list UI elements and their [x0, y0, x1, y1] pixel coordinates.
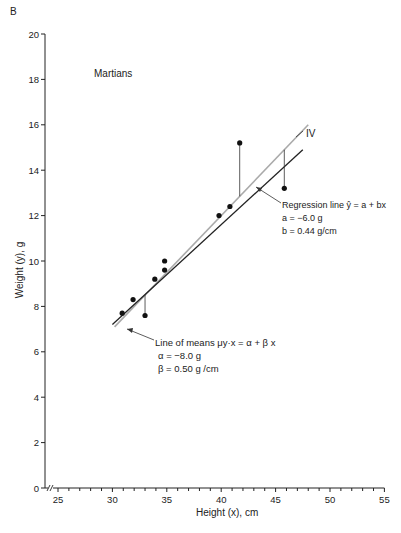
data-point [120, 311, 125, 316]
y-tick-label: 10 [28, 256, 39, 267]
annotation-leaders [127, 131, 303, 340]
chart-title: Martians [94, 68, 132, 79]
axis-break-icon [50, 485, 53, 491]
y-tick-label: 4 [34, 392, 39, 403]
iv-label: IV [306, 128, 316, 139]
x-tick-label: 40 [216, 494, 227, 505]
means-annotation-line2: α = −8.0 g [158, 350, 201, 361]
data-point [152, 277, 157, 282]
regression-annotation-line2: a = −6.0 g [282, 213, 323, 223]
y-tick-label: 8 [34, 301, 39, 312]
x-tick-label: 35 [162, 494, 173, 505]
axes: 0246810121416182025303540455055 [28, 29, 389, 506]
y-tick-label: 12 [28, 210, 39, 221]
data-point [162, 267, 167, 272]
y-axis-label: Weight (y), g [14, 242, 25, 299]
data-point [130, 297, 135, 302]
means-annotation-line1: Line of means μy·x = α + β x [155, 337, 276, 348]
data-point [216, 213, 221, 218]
data-point [227, 204, 232, 209]
x-tick-label: 50 [325, 494, 336, 505]
data-point [237, 140, 242, 145]
y-tick-label: 14 [28, 165, 39, 176]
x-axis-label: Height (x), cm [196, 507, 258, 518]
means-arrowhead-icon [127, 328, 133, 333]
scatter-chart: 0246810121416182025303540455055 Martians… [0, 0, 401, 533]
iv-leader-line [296, 131, 303, 137]
residual-markers [145, 143, 284, 316]
y-tick-label: 20 [28, 29, 39, 40]
regression-annotation-line1: Regression line ŷ = a + bx [282, 200, 387, 210]
x-tick-label: 30 [107, 494, 118, 505]
y-tick-label: 2 [34, 437, 39, 448]
data-point [142, 313, 147, 318]
x-tick-label: 45 [270, 494, 281, 505]
y-tick-label: 6 [34, 346, 39, 357]
regression-annotation-line3: b = 0.44 g/cm [282, 226, 337, 236]
regression-line [112, 150, 302, 325]
y-tick-label: 0 [34, 483, 39, 494]
data-point [282, 186, 287, 191]
means-annotation-line3: β = 0.50 g /cm [158, 363, 219, 374]
data-points [120, 140, 287, 318]
fit-lines [112, 125, 308, 327]
data-point [162, 258, 167, 263]
y-tick-label: 18 [28, 74, 39, 85]
x-tick-label: 55 [379, 494, 390, 505]
chart-labels: Martians Height (x), cm Weight (y), g IV… [14, 68, 387, 518]
y-tick-label: 16 [28, 119, 39, 130]
x-tick-label: 25 [53, 494, 64, 505]
